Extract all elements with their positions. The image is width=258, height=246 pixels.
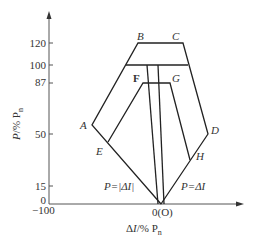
x-tick-label-origin: 0(O) [152,206,173,219]
y-tick-label-87: 87 [35,76,47,88]
axes: 120 100 87 50 15 0 −100 0(O) P/% Pn ΔI/%… [10,11,244,237]
point-label-f: F [133,72,140,84]
center-line-right [158,65,164,204]
point-label-d: D [210,124,219,136]
point-label-h: H [195,150,205,162]
y-tick-label-50: 50 [35,128,47,140]
x-axis-arrow-icon [236,202,244,207]
y-tick-label-100: 100 [30,59,47,71]
power-deviation-diagram: 120 100 87 50 15 0 −100 0(O) P/% Pn ΔI/%… [0,0,258,246]
equation-labels: P=|ΔI| P=ΔI [103,180,207,192]
point-label-e: E [95,145,103,157]
y-tick-label-120: 120 [30,37,47,49]
point-label-g: G [172,72,180,84]
point-label-c: C [172,30,180,42]
point-label-a: A [79,119,87,131]
center-lines [147,65,164,204]
y-axis-arrow-icon [47,11,52,19]
point-label-b: B [137,30,144,42]
x-axis-label: ΔI/% Pn [126,222,162,237]
x-tick-label-minus100: −100 [32,204,55,216]
y-tick-label-15: 15 [35,180,47,192]
equation-right: P=ΔI [180,180,207,192]
equation-left: P=|ΔI| [103,180,134,192]
center-line-left [147,65,158,204]
y-axis-label: P/% Pn [10,108,25,141]
